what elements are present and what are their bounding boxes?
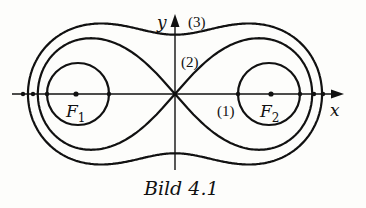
focus-f2-point — [268, 91, 273, 96]
curve-3-label: (3) — [188, 14, 206, 31]
curve-1-label: (1) — [217, 103, 235, 120]
figure-caption: Bild 4.1 — [143, 177, 219, 199]
y-axis-arrow-icon — [171, 14, 180, 27]
curve-2-label: (2) — [181, 54, 199, 71]
focus-f2-label: F2 — [259, 101, 279, 125]
focus-f1-point — [73, 91, 78, 96]
focus-f1-label: F1 — [65, 101, 85, 125]
x-axis-label: x — [330, 100, 340, 120]
cassini-diagram: y x F1 F2 (1) (2) (3) Bild 4.1 — [0, 0, 366, 208]
x-axis-arrow-icon — [331, 90, 344, 99]
y-axis-label: y — [156, 12, 167, 32]
